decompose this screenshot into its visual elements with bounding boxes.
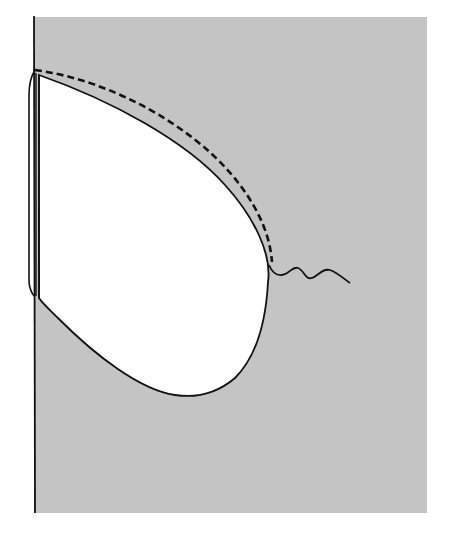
diagram: [0, 0, 449, 536]
vertical-boundary-line: [34, 16, 35, 513]
